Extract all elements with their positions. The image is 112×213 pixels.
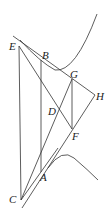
label-G: G bbox=[70, 68, 78, 80]
diagram: E B G H D F A C bbox=[0, 0, 112, 213]
diagram-svg: E B G H D F A C bbox=[0, 0, 112, 213]
upper-curve bbox=[20, 14, 97, 70]
label-E: E bbox=[8, 40, 16, 52]
label-A: A bbox=[39, 171, 47, 183]
segment-EC bbox=[19, 46, 21, 200]
lower-curve bbox=[48, 155, 98, 180]
label-B: B bbox=[42, 49, 49, 61]
label-C: C bbox=[9, 193, 17, 205]
label-H: H bbox=[95, 90, 105, 102]
tangent-line-BH bbox=[13, 36, 95, 95]
label-F: F bbox=[71, 130, 79, 142]
label-D: D bbox=[47, 105, 56, 117]
